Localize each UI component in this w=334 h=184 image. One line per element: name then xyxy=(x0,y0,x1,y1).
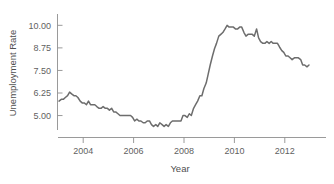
y-axis-tick-label: 7.50 xyxy=(33,66,51,76)
y-axis-tick-label: 6.25 xyxy=(33,88,51,98)
x-axis-tick-label: 2012 xyxy=(275,146,295,156)
x-axis-tick-labels: 20042006200820102012 xyxy=(73,146,295,156)
y-axis-tick-label: 8.75 xyxy=(33,43,51,53)
y-axis-title: Unemployment Rate xyxy=(7,30,18,117)
x-axis-tick-label: 2006 xyxy=(124,146,144,156)
x-axis-tick-label: 2010 xyxy=(224,146,244,156)
x-axis-tick-label: 2008 xyxy=(174,146,194,156)
y-axis-tick-labels: 5.006.257.508.7510.00 xyxy=(28,21,51,121)
unemployment-rate-chart: 5.006.257.508.7510.00 200420062008201020… xyxy=(0,0,334,184)
y-axis-tick-label: 5.00 xyxy=(33,111,51,121)
x-axis-title: Year xyxy=(170,163,189,174)
y-axis-tick-label: 10.00 xyxy=(28,21,51,31)
y-axis-tick-marks xyxy=(58,25,63,115)
chart-canvas: 5.006.257.508.7510.00 200420062008201020… xyxy=(0,0,334,184)
series-line-unemployment-rate xyxy=(59,25,309,126)
x-axis-tick-marks xyxy=(83,138,285,144)
x-axis-tick-label: 2004 xyxy=(73,146,93,156)
